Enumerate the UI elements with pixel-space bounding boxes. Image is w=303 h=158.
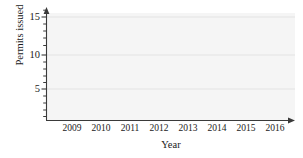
x-tick-label-2012: 2012 <box>144 122 174 134</box>
x-axis-title: Year <box>46 139 296 150</box>
x-tick-label-2009: 2009 <box>57 122 87 134</box>
x-tick-label-2013: 2013 <box>173 122 203 134</box>
x-tick-label-2016: 2016 <box>260 122 290 134</box>
y-tick-label-5: 5 <box>20 84 40 94</box>
y-major-ticks <box>42 17 47 89</box>
x-tick-label-2015: 2015 <box>231 122 261 134</box>
chart-canvas <box>0 0 303 158</box>
x-tick-label-2010: 2010 <box>86 122 116 134</box>
chart-figure: Permits issued 15 10 5 2009 2010 2011 20… <box>0 0 303 158</box>
y-tick-label-15: 15 <box>20 12 40 22</box>
y-tick-label-10: 10 <box>20 50 40 60</box>
plot-background <box>46 13 295 120</box>
x-tick-label-2014: 2014 <box>202 122 232 134</box>
x-tick-label-2011: 2011 <box>115 122 145 134</box>
